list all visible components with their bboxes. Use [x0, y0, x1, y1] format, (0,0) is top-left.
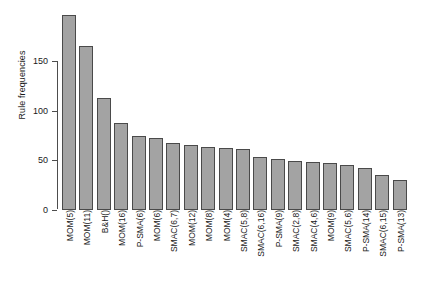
- y-axis-tick: [52, 111, 57, 112]
- x-axis-label-slot: SMAC(2,8): [288, 212, 304, 286]
- bar: [201, 147, 215, 210]
- x-axis-label: MOM(11): [82, 210, 92, 284]
- bar: [132, 136, 146, 211]
- y-axis-tick: [52, 61, 57, 62]
- y-axis-title: Rule frequencies: [17, 15, 27, 155]
- x-axis-label-slot: MOM(6): [149, 212, 165, 286]
- x-axis-label-slot: MOM(5): [62, 212, 78, 286]
- y-axis-tick: [52, 210, 57, 211]
- bar: [358, 168, 372, 210]
- bar: [149, 138, 163, 210]
- x-axis-label: B&H(): [100, 210, 110, 284]
- x-axis-label: SMAC(6,16): [256, 210, 266, 284]
- x-axis-label-slot: MOM(16): [114, 212, 130, 286]
- bar: [271, 159, 285, 210]
- y-axis-tick: [52, 160, 57, 161]
- bar: [114, 123, 128, 210]
- x-axis-label: P-SMA(9): [274, 210, 284, 284]
- y-axis-tick-label: 50: [26, 155, 48, 165]
- bar: [62, 15, 76, 210]
- plot-area: [58, 8, 418, 210]
- bar: [375, 175, 389, 210]
- bar: [288, 161, 302, 210]
- x-axis-label: MOM(12): [187, 210, 197, 284]
- x-axis-label-slot: MOM(9): [323, 212, 339, 286]
- x-axis-label: SMAC(2,8): [291, 210, 301, 284]
- bar: [184, 145, 198, 210]
- x-axis-label: P-SMA(6): [135, 210, 145, 284]
- x-axis-label-slot: MOM(11): [79, 212, 95, 286]
- x-axis-label-slot: SMAC(6,7): [166, 212, 182, 286]
- bar: [219, 148, 233, 210]
- x-axis-label: P-SMA(14): [361, 210, 371, 284]
- x-axis-label: MOM(6): [152, 210, 162, 284]
- x-axis-label-slot: SMAC(5,6): [340, 212, 356, 286]
- x-axis-label: MOM(9): [326, 210, 336, 284]
- bar: [393, 180, 407, 210]
- x-axis-label: MOM(5): [65, 210, 75, 284]
- x-axis-label: SMAC(6,15): [378, 210, 388, 284]
- x-axis-label: SMAC(5,6): [343, 210, 353, 284]
- x-axis-label: P-SMA(13): [396, 210, 406, 284]
- bar: [253, 157, 267, 210]
- x-axis-label-slot: SMAC(4,6): [306, 212, 322, 286]
- x-axis-label: MOM(8): [204, 210, 214, 284]
- x-axis-label-slot: SMAC(6,15): [375, 212, 391, 286]
- x-axis-label: MOM(16): [117, 210, 127, 284]
- x-axis-label: MOM(4): [222, 210, 232, 284]
- y-axis-tick-label: 150: [26, 56, 48, 66]
- x-axis-label-slot: B&H(): [97, 212, 113, 286]
- bar: [306, 162, 320, 210]
- y-axis-tick-label: 0: [26, 205, 48, 215]
- x-axis-label-slot: P-SMA(6): [132, 212, 148, 286]
- x-axis-label-slot: SMAC(6,16): [253, 212, 269, 286]
- x-axis-label-slot: P-SMA(14): [358, 212, 374, 286]
- x-axis-label-slot: MOM(8): [201, 212, 217, 286]
- x-axis-label-slot: MOM(4): [219, 212, 235, 286]
- x-axis-labels: MOM(5)MOM(11)B&H()MOM(16)P-SMA(6)MOM(6)S…: [58, 212, 418, 287]
- y-axis-tick-label: 100: [26, 106, 48, 116]
- bar: [79, 46, 93, 210]
- x-axis-label: SMAC(5,8): [239, 210, 249, 284]
- x-axis-label-slot: MOM(12): [184, 212, 200, 286]
- bar: [323, 163, 337, 210]
- rule-frequencies-bar-chart: Rule frequencies 050100150 MOM(5)MOM(11)…: [0, 0, 421, 287]
- bar: [236, 149, 250, 210]
- x-axis-label-slot: P-SMA(13): [393, 212, 409, 286]
- bar: [166, 143, 180, 210]
- x-axis-label-slot: P-SMA(9): [271, 212, 287, 286]
- x-axis-label: SMAC(4,6): [309, 210, 319, 284]
- bar: [340, 165, 354, 210]
- bar: [97, 98, 111, 210]
- x-axis-label: SMAC(6,7): [169, 210, 179, 284]
- x-axis-label-slot: SMAC(5,8): [236, 212, 252, 286]
